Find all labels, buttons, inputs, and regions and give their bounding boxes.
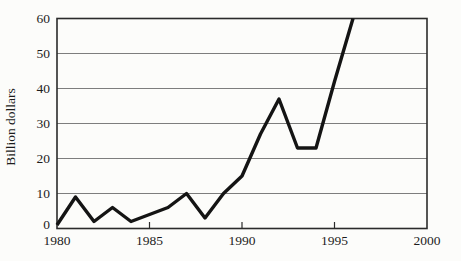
x-tick-label: 1980 (44, 233, 71, 248)
x-tick-label: 1990 (229, 233, 256, 248)
line-chart: Billion dollars 010203040506019801985199… (0, 0, 461, 261)
y-tick-label: 60 (37, 11, 51, 26)
x-tick-label: 1985 (136, 233, 163, 248)
y-axis-title: Billion dollars (3, 88, 18, 166)
y-tick-label: 10 (37, 186, 51, 201)
data-series-line (57, 19, 353, 226)
x-tick-label: 2000 (414, 233, 441, 248)
x-tick-label: 1995 (321, 233, 348, 248)
line-chart-figure: Billion dollars 010203040506019801985199… (0, 0, 461, 261)
y-tick-label: 40 (37, 81, 51, 96)
y-tick-label: 50 (37, 46, 51, 61)
y-tick-label: 0 (43, 217, 50, 232)
y-tick-label: 30 (37, 116, 51, 131)
y-tick-label: 20 (37, 151, 51, 166)
